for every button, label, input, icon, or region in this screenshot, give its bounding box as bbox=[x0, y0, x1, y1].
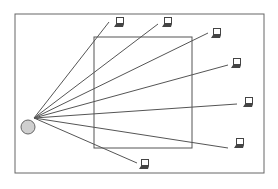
link-4 bbox=[34, 65, 228, 118]
network-diagram bbox=[0, 0, 278, 189]
laptop-icon bbox=[211, 29, 221, 39]
laptop-icon bbox=[162, 18, 172, 28]
laptops bbox=[114, 18, 253, 170]
link-5 bbox=[34, 104, 237, 118]
laptop-icon bbox=[114, 18, 124, 28]
link-6 bbox=[34, 118, 228, 148]
laptop-icon bbox=[231, 59, 241, 69]
inner-area bbox=[94, 37, 192, 148]
laptop-icon bbox=[243, 98, 253, 108]
laptop-icon bbox=[234, 139, 244, 149]
access-point-node bbox=[21, 120, 35, 134]
links bbox=[34, 22, 237, 163]
link-7 bbox=[34, 118, 137, 163]
laptop-icon bbox=[139, 160, 149, 170]
link-3 bbox=[34, 33, 208, 118]
